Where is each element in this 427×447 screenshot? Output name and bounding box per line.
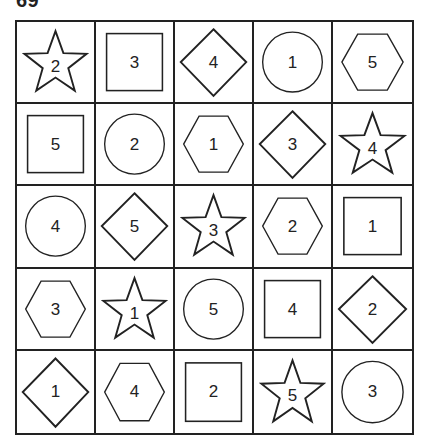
cell-number: 2 xyxy=(333,300,412,320)
cell-number: 1 xyxy=(254,53,331,73)
grid-cell: 3 xyxy=(175,186,254,268)
grid-cell: 3 xyxy=(17,269,96,351)
cell-number: 5 xyxy=(333,53,412,73)
grid-cell: 4 xyxy=(96,351,175,433)
grid-cell: 4 xyxy=(17,186,96,268)
grid-cell: 2 xyxy=(254,186,333,268)
cell-number: 1 xyxy=(96,304,173,324)
grid-cell: 3 xyxy=(254,104,333,186)
grid-cell: 3 xyxy=(333,351,412,433)
cell-number: 2 xyxy=(17,57,94,77)
cell-number: 4 xyxy=(175,53,252,73)
cell-number: 3 xyxy=(96,53,173,73)
cell-number: 4 xyxy=(254,300,331,320)
grid-cell: 1 xyxy=(333,186,412,268)
grid-cell: 3 xyxy=(96,22,175,104)
grid-cell: 4 xyxy=(254,269,333,351)
cell-number: 3 xyxy=(17,300,94,320)
cell-number: 2 xyxy=(96,135,173,155)
grid-cell: 2 xyxy=(17,22,96,104)
cell-number: 3 xyxy=(254,135,331,155)
cell-number: 1 xyxy=(175,135,252,155)
grid-cell: 4 xyxy=(175,22,254,104)
cell-number: 2 xyxy=(254,217,331,237)
grid-cell: 1 xyxy=(17,351,96,433)
grid-cell: 4 xyxy=(333,104,412,186)
cell-number: 4 xyxy=(333,139,412,159)
cell-number: 5 xyxy=(17,135,94,155)
grid-cell: 2 xyxy=(175,351,254,433)
grid-cell: 2 xyxy=(96,104,175,186)
cell-number: 4 xyxy=(17,217,94,237)
grid-cell: 1 xyxy=(175,104,254,186)
cell-number: 1 xyxy=(333,217,412,237)
shape-number-grid: 2341552134453213154214253 xyxy=(15,20,414,435)
cell-number: 3 xyxy=(175,221,252,241)
cell-number: 4 xyxy=(96,382,173,402)
cell-number: 5 xyxy=(96,217,173,237)
grid-cell: 5 xyxy=(254,351,333,433)
grid-cell: 2 xyxy=(333,269,412,351)
grid-cell: 1 xyxy=(254,22,333,104)
cell-number: 2 xyxy=(175,382,252,402)
puzzle-number-label: 69 xyxy=(16,0,39,12)
grid-cell: 5 xyxy=(17,104,96,186)
grid-cell: 5 xyxy=(333,22,412,104)
grid-cell: 5 xyxy=(175,269,254,351)
grid-cell: 5 xyxy=(96,186,175,268)
cell-number: 3 xyxy=(333,382,412,402)
cell-number: 5 xyxy=(254,386,331,406)
cell-number: 5 xyxy=(175,300,252,320)
grid-cell: 1 xyxy=(96,269,175,351)
cell-number: 1 xyxy=(17,382,94,402)
